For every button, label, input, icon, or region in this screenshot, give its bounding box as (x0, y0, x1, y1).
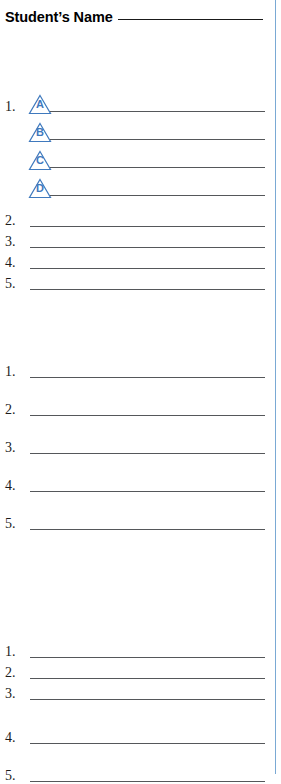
answer-row: 5. (0, 512, 281, 530)
answer-write-in-line[interactable] (30, 529, 265, 530)
triangle-choice-letter: A (28, 99, 52, 110)
triangle-choice-b-icon[interactable]: B (28, 122, 52, 143)
answer-write-in-line[interactable] (30, 657, 265, 658)
answer-row: D (0, 179, 281, 197)
answer-write-in-line[interactable] (30, 678, 265, 679)
answer-row: 3. (0, 230, 281, 248)
answer-write-in-line[interactable] (30, 491, 265, 492)
student-name-write-in-line[interactable] (118, 19, 263, 20)
answer-row-number: 3. (5, 687, 25, 701)
answer-row-number: 3. (5, 235, 25, 249)
answer-row: 4. (0, 251, 281, 269)
triangle-choice-d-icon[interactable]: D (28, 178, 52, 199)
answer-row: C (0, 151, 281, 169)
answer-write-in-line[interactable] (30, 377, 265, 378)
student-name-field[interactable]: Student’s Name (5, 9, 263, 31)
answer-row-number: 4. (5, 731, 25, 745)
answer-row: 2. (0, 398, 281, 416)
triangle-choice-letter: D (28, 183, 52, 194)
triangle-choice-c-icon[interactable]: C (28, 150, 52, 171)
answer-write-in-line[interactable] (30, 781, 265, 782)
answer-row-number: 1. (5, 100, 25, 114)
answer-row-number: 5. (5, 517, 25, 531)
triangle-choice-letter: B (28, 127, 52, 138)
answer-row: 5. (0, 764, 281, 782)
answer-row: B (0, 123, 281, 141)
answer-write-in-line[interactable] (50, 139, 265, 140)
answer-row-number: 2. (5, 403, 25, 417)
answer-row: 2. (0, 209, 281, 227)
answer-row-number: 4. (5, 479, 25, 493)
answer-write-in-line[interactable] (30, 226, 265, 227)
answer-write-in-line[interactable] (30, 699, 265, 700)
answer-row: 1. (0, 360, 281, 378)
answer-row-number: 4. (5, 256, 25, 270)
answer-write-in-line[interactable] (30, 453, 265, 454)
answer-write-in-line[interactable] (50, 111, 265, 112)
answer-row-number: 1. (5, 645, 25, 659)
answer-write-in-line[interactable] (50, 167, 265, 168)
student-name-label: Student’s Name (5, 9, 113, 25)
answer-row: 2. (0, 661, 281, 679)
answer-write-in-line[interactable] (30, 247, 265, 248)
answer-row-number: 3. (5, 441, 25, 455)
answer-row: 4. (0, 726, 281, 744)
triangle-choice-a-icon[interactable]: A (28, 94, 52, 115)
answer-section-three: 1.2.3.4.5. (0, 640, 281, 784)
triangle-choice-letter: C (28, 155, 52, 166)
answer-row-number: 1. (5, 365, 25, 379)
answer-section-one: 1.ABCD2.3.4.5. (0, 95, 281, 292)
answer-row: 1. (0, 640, 281, 658)
answer-row: 3. (0, 436, 281, 454)
answer-write-in-line[interactable] (30, 743, 265, 744)
answer-section-two: 1.2.3.4.5. (0, 360, 281, 532)
answer-row-number: 5. (5, 769, 25, 783)
answer-row: 1.A (0, 95, 281, 113)
answer-row-number: 5. (5, 277, 25, 291)
answer-row-number: 2. (5, 666, 25, 680)
answer-write-in-line[interactable] (30, 268, 265, 269)
answer-write-in-line[interactable] (30, 415, 265, 416)
answer-row: 4. (0, 474, 281, 492)
answer-write-in-line[interactable] (30, 289, 265, 290)
answer-write-in-line[interactable] (50, 195, 265, 196)
answer-row: 5. (0, 272, 281, 290)
answer-row: 3. (0, 682, 281, 700)
answer-row-number: 2. (5, 214, 25, 228)
